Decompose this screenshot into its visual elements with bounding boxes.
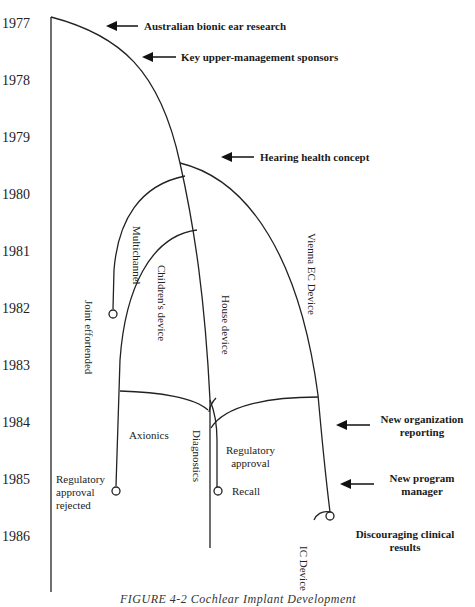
annotation-australian-research: Australian bionic ear research xyxy=(144,20,286,33)
year-label: 1984 xyxy=(2,415,30,431)
label-line: rejected xyxy=(56,499,105,512)
joint-effort-end-marker xyxy=(109,310,117,318)
annotation-line: reporting xyxy=(372,426,472,439)
annotation-line: Discouraging clinical xyxy=(345,528,465,541)
annotation-key-sponsors: Key upper-management sponsors xyxy=(181,51,338,64)
arrow-left-icon xyxy=(340,479,374,489)
year-label: 1986 xyxy=(2,529,30,545)
arrow-left-icon xyxy=(142,52,176,62)
branch-label-vienna-ec-device: Vienna EC Device xyxy=(305,233,318,315)
branch-label-diagnostics: Diagnostics xyxy=(190,430,203,482)
year-label: 1983 xyxy=(2,358,30,374)
annotation-new-program-manager: New program manager xyxy=(372,472,472,498)
branch-label-multichannel: Multichannel xyxy=(130,226,143,285)
label-line: Regulatory xyxy=(226,444,275,457)
branch-label-regulatory-approval: Regulatory approval xyxy=(226,444,275,470)
regulatory-connector xyxy=(211,397,318,428)
year-label: 1985 xyxy=(2,472,30,488)
annotation-hearing-health: Hearing health concept xyxy=(260,151,369,164)
annotation-line: New program xyxy=(372,472,472,485)
branch-label-house-device: House device xyxy=(219,295,232,355)
branch-label-joint-effort: Joint effort ended xyxy=(82,300,95,350)
branch-label-regulatory-rejected: Regulatory approval rejected xyxy=(56,473,105,512)
branch-label-axionics: Axionics xyxy=(129,429,169,442)
recall-end-marker xyxy=(214,487,222,495)
ic-device-end-marker xyxy=(326,512,334,520)
regulatory-rejected-end-marker xyxy=(112,487,120,495)
annotation-line: results xyxy=(345,541,465,554)
year-label: 1981 xyxy=(2,244,30,260)
figure-caption: FIGURE 4-2 Cochlear Implant Development xyxy=(120,592,356,607)
year-label: 1982 xyxy=(2,301,30,317)
annotation-line: New organization xyxy=(372,413,472,426)
label-line: Joint effort xyxy=(82,300,95,348)
arrow-left-icon xyxy=(106,21,138,31)
annotation-new-organization: New organization reporting xyxy=(372,413,472,439)
multichannel-branch xyxy=(113,176,185,309)
year-label: 1977 xyxy=(2,16,30,32)
label-line: ended xyxy=(82,348,95,374)
arrow-left-icon xyxy=(336,420,370,430)
label-line: Regulatory xyxy=(56,473,105,486)
annotation-line: manager xyxy=(372,485,472,498)
branch-label-ic-device: IC Device xyxy=(297,546,310,591)
arrow-left-icon xyxy=(221,152,254,162)
annotation-discouraging-results: Discouraging clinical results xyxy=(345,528,465,554)
year-label: 1980 xyxy=(2,187,30,203)
branch-label-recall: Recall xyxy=(232,485,260,498)
year-label: 1978 xyxy=(2,73,30,89)
house-device-branch xyxy=(210,400,217,487)
year-label: 1979 xyxy=(2,130,30,146)
branch-label-childrens-device: Children's device xyxy=(155,265,168,341)
label-line: approval xyxy=(226,457,275,470)
axionics-connector xyxy=(120,391,208,410)
label-line: approval xyxy=(56,486,105,499)
